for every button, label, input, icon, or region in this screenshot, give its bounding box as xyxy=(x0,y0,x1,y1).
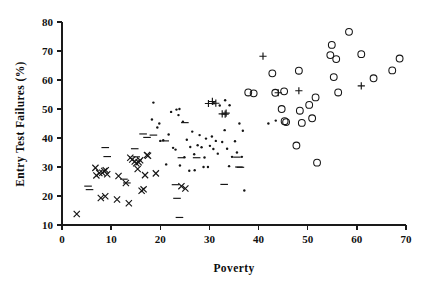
data-point-dot xyxy=(182,121,184,123)
data-point-circle xyxy=(296,107,303,114)
data-point-dot xyxy=(215,140,217,142)
data-point-dot xyxy=(212,148,214,150)
x-tick-label: 60 xyxy=(351,233,363,245)
data-point-circle xyxy=(281,88,288,95)
data-point-circle xyxy=(370,75,377,82)
data-point-dot xyxy=(217,152,219,154)
data-point-dot xyxy=(211,135,213,137)
data-point-dot xyxy=(228,165,230,167)
series-dash-group xyxy=(84,123,244,218)
data-point-dot xyxy=(228,104,230,106)
data-point-dot xyxy=(209,145,211,147)
x-tick-label: 50 xyxy=(302,233,314,245)
data-point-dot xyxy=(156,126,158,128)
data-point-dot xyxy=(205,137,207,139)
chart-canvas: 1020304050607080 010203040506070 Poverty… xyxy=(0,0,421,286)
x-tick-label: 30 xyxy=(204,233,216,245)
y-tick-label: 20 xyxy=(42,190,54,202)
data-point-dot xyxy=(152,101,154,103)
data-point-x xyxy=(126,200,132,206)
data-point-dot xyxy=(267,122,269,124)
data-point-dot xyxy=(207,166,209,168)
data-point-circle xyxy=(396,55,403,62)
data-point-dot xyxy=(191,130,193,132)
x-tick-label: 40 xyxy=(253,233,265,245)
data-point-x xyxy=(142,172,148,178)
data-point-dot xyxy=(189,146,191,148)
x-tick-label: 20 xyxy=(155,233,167,245)
data-point-plus xyxy=(358,82,365,89)
data-point-dot xyxy=(179,164,181,166)
data-point-dot xyxy=(226,148,228,150)
y-tick-label: 70 xyxy=(42,45,54,57)
data-point-circle xyxy=(293,142,300,149)
data-point-circle xyxy=(389,67,396,74)
data-point-dot xyxy=(165,163,167,165)
data-point-dot xyxy=(158,122,160,124)
x-tick-label: 0 xyxy=(59,233,65,245)
data-point-plus xyxy=(259,53,266,60)
series-cross-group xyxy=(74,152,189,217)
data-point-circle xyxy=(306,102,313,109)
data-point-dot xyxy=(151,118,153,120)
data-point-x xyxy=(114,196,120,202)
data-point-circle xyxy=(309,115,316,122)
data-point-x xyxy=(135,166,141,172)
data-point-circle xyxy=(335,89,342,96)
data-point-circle xyxy=(330,74,337,81)
y-tick-label: 50 xyxy=(42,103,54,115)
data-point-dot xyxy=(170,111,172,113)
data-point-circle xyxy=(278,106,285,113)
y-tick-label: 80 xyxy=(42,16,54,28)
data-point-circle xyxy=(312,94,319,101)
data-point-circle xyxy=(358,51,365,58)
data-point-dot xyxy=(221,141,223,143)
data-point-dot xyxy=(223,129,225,131)
y-axis-ticks: 1020304050607080 xyxy=(42,16,62,231)
data-point-dot xyxy=(219,104,221,106)
data-points-layer xyxy=(74,28,403,217)
data-point-dot xyxy=(162,139,164,141)
x-tick-label: 10 xyxy=(106,233,118,245)
data-point-dot xyxy=(196,144,198,146)
data-point-dot xyxy=(236,151,238,153)
data-point-circle xyxy=(269,70,276,77)
data-point-dot xyxy=(231,156,233,158)
data-point-dot xyxy=(167,133,169,135)
x-axis-ticks: 010203040506070 xyxy=(59,225,412,245)
data-point-dot xyxy=(243,189,245,191)
data-point-dot xyxy=(193,153,195,155)
series-circle-group xyxy=(245,28,403,166)
data-point-dot xyxy=(174,148,176,150)
axes-spines xyxy=(62,22,406,225)
data-point-x xyxy=(115,173,121,179)
data-point-dot xyxy=(183,156,185,158)
x-axis-title: Poverty xyxy=(213,262,254,275)
data-point-dot xyxy=(177,114,179,116)
x-tick-label: 70 xyxy=(401,233,413,245)
data-point-dot xyxy=(200,146,202,148)
data-point-x xyxy=(92,165,98,171)
data-point-dot xyxy=(202,166,204,168)
data-point-dot xyxy=(172,147,174,149)
data-point-circle xyxy=(346,28,353,35)
data-point-circle xyxy=(328,42,335,49)
scatter-plot-figure: 1020304050607080 010203040506070 Poverty… xyxy=(0,0,421,286)
y-tick-label: 30 xyxy=(42,161,54,173)
data-point-plus xyxy=(223,109,230,116)
data-point-dot xyxy=(159,140,161,142)
data-point-dot xyxy=(242,130,244,132)
data-point-dot xyxy=(198,134,200,136)
data-point-dot xyxy=(224,99,226,101)
data-point-x xyxy=(137,157,143,163)
data-point-dot xyxy=(175,108,177,110)
y-tick-label: 10 xyxy=(42,219,54,231)
data-point-plus xyxy=(295,87,302,94)
data-point-dot xyxy=(188,170,190,172)
data-point-x xyxy=(153,170,159,176)
data-point-x xyxy=(140,186,146,192)
series-dot-group xyxy=(151,99,277,192)
data-point-dot xyxy=(178,108,180,110)
y-tick-label: 60 xyxy=(42,74,54,86)
data-point-dot xyxy=(193,169,195,171)
